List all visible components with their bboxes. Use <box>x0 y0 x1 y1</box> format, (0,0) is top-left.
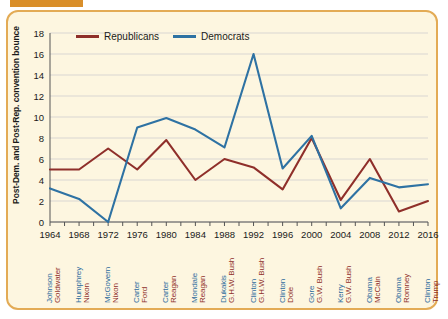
chart-legend: RepublicansDemocrats <box>76 31 249 42</box>
legend-swatch-icon <box>76 35 99 38</box>
legend-label: Democrats <box>201 31 249 42</box>
plot-area <box>0 0 448 319</box>
legend-swatch-icon <box>173 35 196 38</box>
axis-ticks <box>50 222 428 226</box>
legend-item-republicans: Republicans <box>76 31 159 42</box>
legend-item-democrats: Democrats <box>173 31 249 42</box>
chart-figure: Post-Dem. and Post-Rep. convention bounc… <box>0 0 448 319</box>
axis-lines <box>50 33 428 222</box>
legend-label: Republicans <box>104 31 159 42</box>
gridlines <box>50 33 428 222</box>
